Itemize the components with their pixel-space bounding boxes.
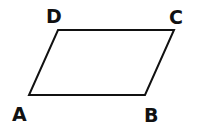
parallelogram-diagram: A B C D	[0, 0, 199, 134]
vertex-label-d: D	[46, 5, 62, 27]
vertex-label-c: C	[169, 6, 183, 28]
vertex-label-b: B	[144, 104, 158, 126]
vertex-label-a: A	[12, 103, 27, 125]
parallelogram-abcd	[29, 30, 174, 95]
